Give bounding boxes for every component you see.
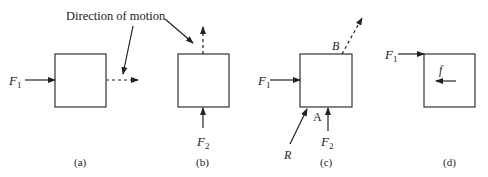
direction-of-motion-label: Direction of motion: [66, 9, 166, 23]
r-label: R: [283, 148, 292, 162]
caption-a: (a): [74, 156, 87, 169]
point-a-label: A: [313, 110, 322, 124]
block-c: [300, 54, 352, 107]
annotation-pointer-arrow: [123, 26, 133, 74]
caption-b: (b): [196, 156, 209, 169]
panel-a: F1 (a): [8, 54, 138, 169]
caption-d: (d): [443, 156, 456, 169]
f1-label-d: F1: [384, 47, 397, 64]
f2-label-b: F2: [196, 134, 209, 151]
motion-arrow-c: [342, 18, 362, 54]
f1-label-a: F1: [8, 73, 21, 90]
panel-d: F1 f (d): [384, 47, 475, 169]
force-r-arrow: [290, 109, 307, 144]
block-a: [55, 54, 106, 107]
f1-label-c: F1: [257, 73, 270, 90]
block-b: [178, 54, 229, 107]
panel-c: F1 B R A F2 (c): [257, 18, 362, 169]
annotation-arrow-b: [165, 19, 193, 43]
point-b-label: B: [332, 39, 340, 53]
f2-label-c: F2: [320, 134, 333, 151]
caption-c: (c): [320, 156, 333, 169]
force-diagram: Direction of motion F1 (a) F2 (b) F1 B R…: [0, 0, 488, 177]
panel-b: F2 (b): [165, 19, 229, 169]
